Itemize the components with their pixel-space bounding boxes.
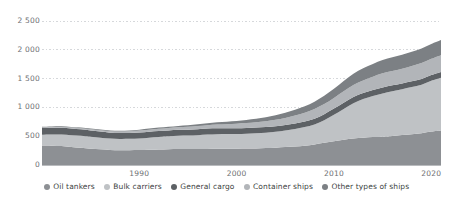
plot-area — [42, 21, 441, 165]
legend-swatch-icon — [322, 184, 328, 190]
legend-swatch-icon — [104, 184, 110, 190]
legend-swatch-icon — [44, 184, 50, 190]
legend-label: Container ships — [253, 183, 313, 191]
plot-svg — [42, 21, 441, 165]
x-tick-label: 2010 — [324, 169, 344, 178]
y-axis: 05001 0001 5002 0002 500 — [0, 0, 40, 204]
legend-swatch-icon — [244, 184, 250, 190]
legend-label: Oil tankers — [53, 183, 95, 191]
area-series-group — [42, 40, 441, 165]
y-tick-label: 500 — [2, 132, 40, 140]
legend-swatch-icon — [171, 184, 177, 190]
chart-legend: Oil tankersBulk carriersGeneral cargoCon… — [0, 183, 453, 191]
legend-item-general-cargo[interactable]: General cargo — [171, 183, 235, 191]
y-tick-label: 1 000 — [2, 104, 40, 112]
y-tick-label: 2 000 — [2, 46, 40, 54]
legend-label: General cargo — [180, 183, 234, 191]
legend-item-container-ships[interactable]: Container ships — [244, 183, 313, 191]
legend-item-oil-tankers[interactable]: Oil tankers — [44, 183, 95, 191]
y-tick-label: 0 — [2, 161, 40, 169]
x-axis: 1990200020102020 — [42, 166, 441, 180]
legend-label: Bulk carriers — [113, 183, 161, 191]
y-tick-label: 1 500 — [2, 75, 40, 83]
x-tick-label: 2020 — [421, 169, 441, 178]
legend-item-other-types-of-ships[interactable]: Other types of ships — [322, 183, 409, 191]
legend-item-bulk-carriers[interactable]: Bulk carriers — [104, 183, 162, 191]
legend-label: Other types of ships — [331, 183, 409, 191]
stacked-area-chart: 05001 0001 5002 0002 500 199020002010202… — [0, 0, 453, 204]
x-tick-label: 2000 — [227, 169, 247, 178]
x-tick-label: 1990 — [129, 169, 149, 178]
y-tick-label: 2 500 — [2, 17, 40, 25]
